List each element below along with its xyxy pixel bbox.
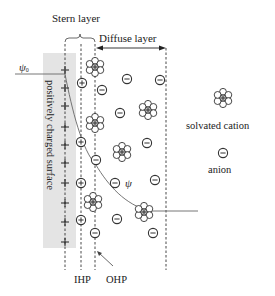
anion-icon [115, 108, 124, 117]
stern-bracket [65, 34, 95, 42]
solvated-cation-icon [86, 113, 104, 132]
solvated-cation-icon [135, 202, 153, 221]
anion-icon [150, 175, 159, 184]
diffuse-layer-arrow [96, 46, 166, 51]
anion-icon [142, 138, 151, 147]
legend-cation-label: solvated cation [186, 120, 250, 131]
solvated-cation-icon [139, 100, 157, 119]
ihp-label: IHP [74, 274, 91, 285]
diagram-canvas: Stern layer Diffuse layer ψ0 ψ positivel… [0, 0, 275, 296]
stern-layer-label: Stern layer [52, 12, 100, 24]
anion-icon [148, 228, 157, 237]
ihp-cation-icon [76, 215, 85, 224]
anion-icon [112, 214, 121, 223]
ions [76, 57, 164, 237]
solvated-cation-icon [84, 192, 102, 211]
anion-icon [90, 228, 99, 237]
solvated-cation-icon [113, 142, 131, 161]
edl-diagram: Stern layer Diffuse layer ψ0 ψ positivel… [0, 0, 275, 296]
psi-label: ψ [125, 177, 132, 189]
anion-icon [110, 178, 119, 187]
anion-icon [91, 155, 100, 164]
ohp-pointer [99, 253, 113, 266]
surface-label: positively charged surface [45, 80, 56, 190]
ohp-label: OHP [106, 274, 127, 285]
ihp-cation-icon [77, 78, 86, 87]
solvated-cation-icon [214, 88, 232, 107]
psi0-subscript: 0 [26, 67, 29, 73]
anion-icon [97, 85, 106, 94]
solvated-cation-icon [86, 57, 104, 76]
ihp-cation-icon [76, 178, 85, 187]
anion-icon [122, 74, 131, 83]
diffuse-layer-label: Diffuse layer [99, 32, 157, 44]
anion-icon [155, 75, 164, 84]
psi0-label: ψ0 [19, 61, 29, 73]
legend-anion-icon [218, 148, 227, 157]
legend-anion-label: anion [208, 164, 232, 175]
ihp-cation-icon [76, 137, 85, 146]
